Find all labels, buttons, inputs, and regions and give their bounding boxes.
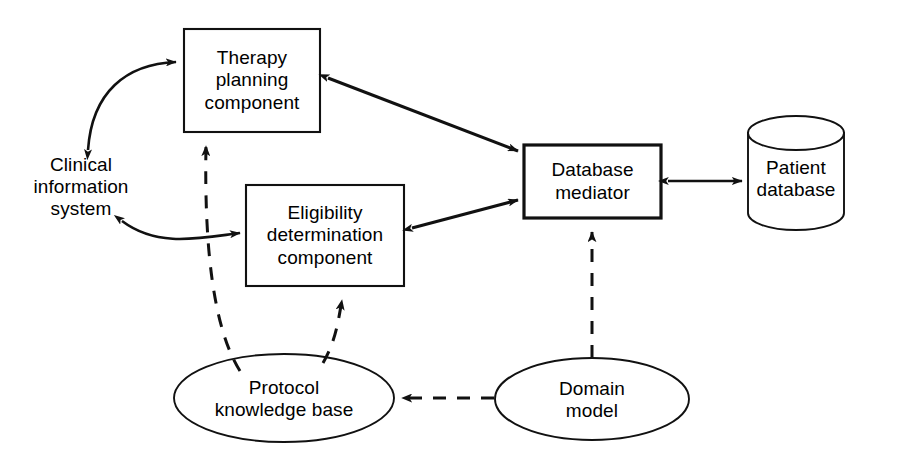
edge-cis-eligibility <box>122 221 240 239</box>
edge-pkb-therapy <box>206 146 240 371</box>
node-shape-protocol-knowledge-base <box>174 354 394 442</box>
node-shape-database-mediator <box>524 145 661 218</box>
edge-pkb-eligibility <box>323 300 342 363</box>
edge-eligibility-mediator <box>412 200 518 228</box>
diagram-canvas <box>0 0 910 469</box>
architecture-diagram: Therapy planning component Clinical info… <box>0 0 910 469</box>
node-shape-patient-database <box>748 116 844 230</box>
node-shape-therapy-planning-component <box>184 29 320 132</box>
node-shape-eligibility-determination-component <box>246 185 404 286</box>
edge-therapy-mediator <box>328 78 518 151</box>
node-shape-domain-model <box>495 358 689 440</box>
edge-cis-therapy <box>88 62 176 150</box>
